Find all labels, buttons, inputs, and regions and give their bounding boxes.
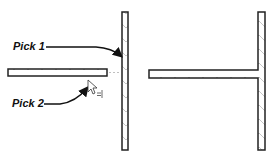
cursor-icon	[88, 80, 97, 94]
left-vertical-wall	[122, 12, 128, 150]
left-horizontal-wall	[8, 69, 107, 76]
pick1-arrow	[46, 47, 121, 56]
diagram-canvas	[0, 0, 278, 158]
pick1-label: Pick 1	[13, 40, 45, 52]
pick2-label: Pick 2	[12, 97, 44, 109]
right-t-junction	[149, 12, 265, 150]
pick2-arrow	[44, 88, 87, 104]
trim-extend-hint-icon	[97, 90, 102, 98]
